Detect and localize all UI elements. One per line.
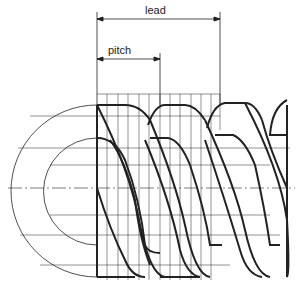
thread-outline: [97, 100, 289, 277]
pitch-label: pitch: [108, 44, 131, 56]
inner-semicircle: [43, 138, 97, 245]
lead-label: lead: [145, 4, 166, 16]
helix-drawing: [0, 0, 300, 296]
outer-semicircle: [11, 105, 97, 277]
